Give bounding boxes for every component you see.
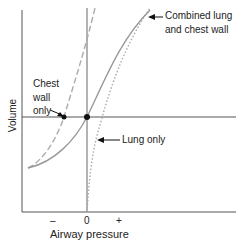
tick-zero: 0 xyxy=(84,215,90,227)
origin-point xyxy=(84,114,90,120)
combined-label-2: and chest wall xyxy=(165,24,228,36)
chest-label-3: only xyxy=(33,105,51,117)
pressure-volume-diagram xyxy=(0,0,244,240)
combined-label-1: Combined lung xyxy=(165,10,232,22)
tick-plus: + xyxy=(116,215,122,227)
combined-arrowhead xyxy=(148,14,155,20)
chest-wall-arrowhead xyxy=(57,112,64,117)
chest-label-2: wall xyxy=(33,92,50,104)
chest-label-1: Chest xyxy=(33,78,59,90)
y-axis-label: Volume xyxy=(7,96,18,136)
lung-only-curve xyxy=(87,8,150,212)
tick-minus: – xyxy=(50,215,56,227)
x-axis-label: Airway pressure xyxy=(50,228,129,240)
lung-label: Lung only xyxy=(122,134,165,146)
lung-arrowhead xyxy=(97,137,104,143)
